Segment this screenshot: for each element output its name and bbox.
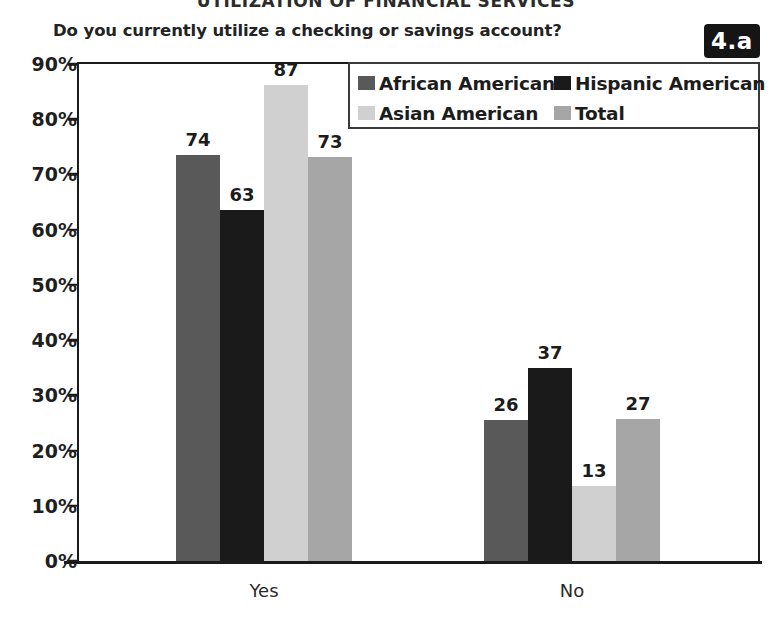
- report-header: UTILIZATION OF FINANCIAL SERVICES: [0, 0, 772, 11]
- bar-value-label: 74: [185, 129, 210, 150]
- bar: [308, 157, 352, 561]
- y-axis-tick-mark: [68, 560, 77, 563]
- chart-page: UTILIZATION OF FINANCIAL SERVICES Do you…: [0, 0, 772, 627]
- chart-legend: African American Hispanic American Asian…: [348, 62, 760, 129]
- legend-item-african-american: African American: [358, 73, 554, 94]
- bar-value-label: 87: [273, 59, 298, 80]
- y-axis-tick-mark: [68, 339, 77, 342]
- axis-baseline: [64, 561, 762, 564]
- legend-swatch-icon: [554, 106, 571, 120]
- legend-label: African American: [379, 73, 555, 94]
- legend-row: Asian American Total: [358, 98, 758, 128]
- chart-question-title: Do you currently utilize a checking or s…: [53, 21, 562, 40]
- bars-layer: 7463877326371327: [79, 64, 758, 561]
- y-axis-tick-mark: [68, 118, 77, 121]
- legend-swatch-icon: [554, 76, 571, 90]
- bar: [616, 419, 660, 561]
- y-axis-tick-mark: [68, 505, 77, 508]
- y-axis: 0%10%20%30%40%50%60%70%80%90%: [0, 0, 77, 627]
- y-axis-tick-mark: [68, 394, 77, 397]
- bar-value-label: 63: [229, 184, 254, 205]
- y-axis-tick-mark: [68, 173, 77, 176]
- y-axis-tick-mark: [68, 449, 77, 452]
- legend-item-asian-american: Asian American: [358, 103, 554, 124]
- legend-row: African American Hispanic American: [358, 68, 758, 98]
- bar-value-label: 37: [537, 342, 562, 363]
- legend-label: Hispanic American: [575, 73, 765, 94]
- bar: [572, 486, 616, 561]
- y-axis-tick-mark: [68, 228, 77, 231]
- y-axis-tick-mark: [68, 284, 77, 287]
- bar: [264, 85, 308, 561]
- legend-swatch-icon: [358, 106, 375, 120]
- legend-label: Asian American: [379, 103, 538, 124]
- bar: [528, 368, 572, 561]
- bar: [176, 155, 220, 561]
- legend-label: Total: [575, 103, 625, 124]
- bar-value-label: 73: [317, 131, 342, 152]
- bar-value-label: 13: [581, 460, 606, 481]
- x-axis-category-label: No: [560, 580, 584, 601]
- legend-swatch-icon: [358, 76, 375, 90]
- bar-value-label: 26: [493, 394, 518, 415]
- bar: [484, 420, 528, 561]
- y-axis-tick-mark: [68, 63, 77, 66]
- x-axis-category-label: Yes: [249, 580, 278, 601]
- legend-item-total: Total: [554, 103, 625, 124]
- figure-badge: 4.a: [704, 24, 760, 58]
- legend-item-hispanic-american: Hispanic American: [554, 73, 765, 94]
- bar: [220, 210, 264, 561]
- bar-value-label: 27: [625, 393, 650, 414]
